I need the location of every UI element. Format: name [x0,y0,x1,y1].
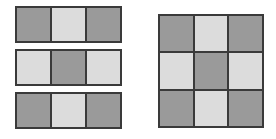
cell-r1c3 [87,8,120,41]
cell-r3c3 [87,94,120,127]
cell-r2c3 [87,51,120,84]
cell-r2c2 [52,51,85,84]
strip-row-3 [15,92,122,129]
cell-r2c1 [17,51,50,84]
cell-r2c2 [195,53,228,88]
figure-canvas [0,0,276,139]
grid-3x3 [158,14,264,128]
cell-r3c1 [160,91,193,126]
cell-r2c1 [160,53,193,88]
cell-r1c1 [160,16,193,51]
cell-r3c2 [195,91,228,126]
cell-r1c2 [52,8,85,41]
strip-row-1 [15,6,122,43]
strip-row-2 [15,49,122,86]
cell-r3c3 [229,91,262,126]
cell-r1c2 [195,16,228,51]
cell-r1c1 [17,8,50,41]
cell-r2c3 [229,53,262,88]
cell-r1c3 [229,16,262,51]
cell-r3c2 [52,94,85,127]
cell-r3c1 [17,94,50,127]
